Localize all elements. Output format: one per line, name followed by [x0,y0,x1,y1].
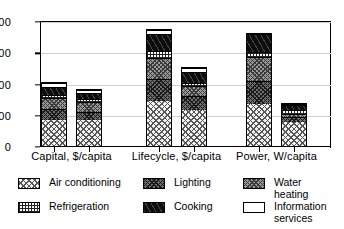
bar-segment-water-heating [42,98,66,109]
chart-figure: 0100200300400 Capital, $/capitaLifecycle… [0,0,344,229]
y-tick-label: 0 [5,141,11,153]
bar-segment-cooking [147,34,171,51]
y-tick-mark [35,146,40,147]
legend-item-refrigeration[interactable]: Refrigeration [18,201,109,213]
y-tick-mark [35,21,40,22]
legend-label-water-heating: Water heating [274,177,338,200]
stacked-bar [281,103,307,147]
stacked-bar [41,82,67,147]
legend-item-water-heating[interactable]: Water heating [243,177,338,200]
bar-segment-air-conditioning [182,110,206,147]
legend-swatch-cooking [143,202,165,213]
legend-label-lighting: Lighting [174,177,211,189]
legend-swatch-information-services [243,202,265,213]
bar-segment-cooking [77,93,101,100]
y-tick-label: 200 [0,79,11,91]
bar-segment-refrigeration [147,51,171,58]
stacked-bar [146,29,172,147]
bar-segment-air-conditioning [147,101,171,146]
y-tick-mark [35,53,40,54]
y-tick-label: 300 [0,47,11,59]
chart-legend: Air conditioningLightingWater heatingRef… [18,177,338,225]
x-axis-group-label: Capital, $/capita [31,150,112,162]
bar-segment-cooking [42,87,66,95]
bar-segment-water-heating [182,86,206,96]
bar-segment-lighting [247,81,271,103]
bar-segment-lighting [182,96,206,110]
legend-swatch-lighting [143,178,165,189]
legend-swatch-refrigeration [18,202,40,213]
legend-label-refrigeration: Refrigeration [49,201,109,213]
bar-segment-lighting [42,109,66,121]
legend-label-air-conditioning: Air conditioning [49,177,121,189]
legend-item-air-conditioning[interactable]: Air conditioning [18,177,121,189]
y-gridline [41,22,331,23]
bar-segment-lighting [147,79,171,101]
stacked-bar [246,33,272,147]
bar-segment-cooking [247,34,271,52]
bar-segment-air-conditioning [247,104,271,146]
legend-item-cooking[interactable]: Cooking [143,201,213,213]
bar-segment-water-heating [77,102,101,112]
legend-item-information-services[interactable]: Information services [243,201,327,224]
y-tick-label: 400 [0,16,11,28]
bar-segment-air-conditioning [77,120,101,146]
bar-segment-water-heating [247,57,271,81]
bar-segment-water-heating [147,58,171,79]
y-tick-label: 100 [0,110,11,122]
x-axis-group-label: Power, W/capita [236,150,317,162]
bar-segment-lighting [77,112,101,120]
bar-segment-air-conditioning [282,122,306,146]
stacked-bar [181,67,207,147]
legend-label-cooking: Cooking [174,201,213,213]
legend-swatch-air-conditioning [18,178,40,189]
legend-swatch-water-heating [243,178,265,189]
bar-segment-cooking [182,72,206,83]
y-gridline [41,53,331,54]
y-tick-mark [35,84,40,85]
bar-segment-air-conditioning [42,120,66,146]
legend-label-information-services: Information services [274,201,327,224]
stacked-bar [76,89,102,147]
x-axis-group-label: Lifecycle, $/capita [132,150,221,162]
legend-item-lighting[interactable]: Lighting [143,177,211,189]
y-tick-mark [35,115,40,116]
